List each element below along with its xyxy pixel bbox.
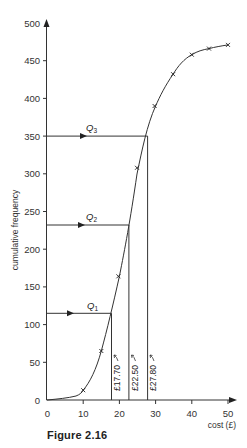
y-tick-50: 50	[29, 357, 40, 368]
y-ticks	[43, 61, 47, 363]
marker-x-icon	[81, 388, 85, 392]
x-tick-20: 20	[114, 408, 125, 419]
x-tick-0: 0	[45, 408, 50, 419]
q1-label: Q1	[87, 300, 98, 312]
q1-pointer-icon	[114, 355, 118, 361]
q1-arrow-icon	[67, 310, 74, 316]
y-tick-100: 100	[24, 319, 40, 330]
q3-arrow-icon	[80, 133, 87, 139]
axes	[47, 26, 231, 400]
q3-cost-label: £27.80	[148, 365, 158, 391]
y-tick-450: 450	[24, 55, 40, 66]
y-axis-arrow-icon	[44, 19, 50, 27]
x-tick-30: 30	[150, 408, 161, 419]
q2-arrow-icon	[78, 222, 85, 228]
x-tick-10: 10	[78, 408, 89, 419]
cumulative-frequency-chart: 0 50 100 150 200 250 300 350 400 450 500…	[0, 0, 247, 448]
x-ticks	[83, 400, 228, 404]
y-tick-150: 150	[24, 281, 40, 292]
q2-cost-label: £22.50	[130, 365, 140, 391]
y-tick-400: 400	[24, 93, 40, 104]
quartile-guides	[47, 136, 148, 400]
q3-pointer-icon	[150, 355, 154, 361]
x-tick-labels: 0 10 20 30 40 50	[45, 408, 233, 419]
cumulative-frequency-curve	[47, 45, 228, 400]
y-axis-title: cumulative frequency	[10, 189, 20, 270]
x-tick-50: 50	[223, 408, 234, 419]
marker-x-icon	[171, 72, 175, 76]
q2-pointer-icon	[132, 355, 136, 361]
q1-cost-label: £17.70	[112, 365, 122, 391]
y-tick-350: 350	[24, 131, 40, 142]
y-tick-250: 250	[24, 206, 40, 217]
q3-label: Q3	[86, 122, 97, 134]
x-axis-arrow-icon	[229, 397, 237, 403]
y-tick-300: 300	[24, 168, 40, 179]
y-tick-0: 0	[35, 395, 40, 406]
y-tick-500: 500	[24, 18, 40, 29]
figure-caption: Figure 2.16	[47, 429, 107, 441]
y-tick-200: 200	[24, 244, 40, 255]
y-tick-labels: 0 50 100 150 200 250 300 350 400 450 500	[24, 18, 40, 406]
x-tick-40: 40	[187, 408, 198, 419]
q2-label: Q2	[86, 211, 97, 223]
marker-x-icon	[190, 53, 194, 57]
x-axis-title: cost (£)	[208, 420, 237, 430]
data-markers	[81, 43, 230, 392]
